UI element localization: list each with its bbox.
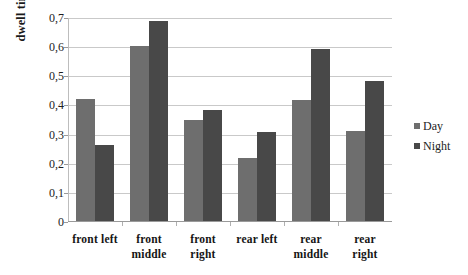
plot-area [68, 18, 392, 222]
square-marker-night-icon [414, 143, 420, 149]
y-axis-tick-label: 0,4 [24, 99, 64, 111]
x-axis-label-front-middle: frontmiddle [122, 232, 176, 262]
bar-day-front-middle [130, 46, 149, 221]
y-axis-tick [64, 222, 68, 223]
x-axis-label-front-left: front left [68, 232, 122, 247]
bar-night-front-left [95, 145, 114, 221]
y-axis-tick-label: 0,2 [24, 158, 64, 170]
y-axis-tick-label: 0 [24, 216, 64, 228]
x-axis-category-divider [230, 222, 231, 226]
gridline [68, 47, 392, 48]
x-axis-category-divider [338, 222, 339, 226]
y-axis-tick-label: 0,5 [24, 70, 64, 82]
gridline [68, 164, 392, 165]
x-axis-category-divider [122, 222, 123, 226]
bar-night-front-right [203, 110, 222, 221]
gridline [68, 135, 392, 136]
legend-item-day[interactable]: Day [414, 116, 468, 136]
bar-day-rear-left [238, 158, 257, 221]
y-axis-tick-label: 0,3 [24, 129, 64, 141]
bar-chart: dwell time [s] 0,70,60,50,40,30,20,10 fr… [0, 0, 468, 275]
gridline [68, 18, 392, 19]
x-axis-category-divider [284, 222, 285, 226]
legend-item-night[interactable]: Night [414, 136, 468, 156]
gridline [68, 193, 392, 194]
bar-night-rear-middle [311, 49, 330, 221]
bar-day-front-right [184, 120, 203, 221]
bar-night-rear-right [365, 81, 384, 221]
bar-night-rear-left [257, 132, 276, 221]
x-axis-category-divider [176, 222, 177, 226]
gridline [68, 105, 392, 106]
plot-background [68, 18, 392, 222]
square-marker-day-icon [414, 123, 420, 129]
x-axis-label-front-right: frontright [176, 232, 230, 262]
y-axis-tick-label: 0,6 [24, 41, 64, 53]
legend: Day Night [414, 116, 468, 156]
gridline [68, 76, 392, 77]
bar-day-rear-middle [292, 100, 311, 221]
legend-label-day: Day [423, 120, 443, 132]
y-axis-line [68, 18, 69, 222]
bar-day-rear-right [346, 131, 365, 221]
x-axis-label-rear-middle: rearmiddle [284, 232, 338, 262]
bar-night-front-middle [149, 21, 168, 221]
y-axis-tick-label: 0,1 [24, 187, 64, 199]
x-axis-label-rear-left: rear left [230, 232, 284, 247]
legend-label-night: Night [423, 140, 450, 152]
y-axis-tick-label: 0,7 [24, 12, 64, 24]
x-axis-label-rear-right: rearright [338, 232, 392, 262]
bar-day-front-left [76, 99, 95, 221]
